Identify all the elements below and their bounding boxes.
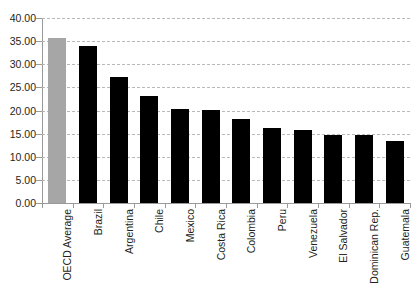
y-axis-tick <box>36 157 42 158</box>
x-axis-tick <box>134 203 135 208</box>
x-axis-tick <box>410 203 411 208</box>
x-axis-tick-label: Dominican Rep. <box>369 209 380 284</box>
x-axis-tick <box>379 203 380 208</box>
x-axis-tick-label: Chile <box>154 209 165 233</box>
x-axis-tick <box>103 203 104 208</box>
y-axis-tick <box>36 180 42 181</box>
x-axis-tick-label: El Salvador <box>338 209 349 263</box>
y-axis-tick <box>36 111 42 112</box>
y-axis-tick <box>36 64 42 65</box>
x-axis-tick-label: Mexico <box>185 209 196 242</box>
x-axis-tick <box>73 203 74 208</box>
y-axis-tick <box>36 87 42 88</box>
x-axis-tick <box>318 203 319 208</box>
x-axis-tick-label: Argentina <box>124 209 135 254</box>
x-axis-tick-label: OECD Average <box>62 209 73 281</box>
x-axis-tick-label: Colombia <box>246 209 257 253</box>
y-axis-tick <box>36 134 42 135</box>
x-axis-tick <box>257 203 258 208</box>
x-axis-tick-label: Guatemala <box>400 209 411 260</box>
y-axis-tick <box>36 41 42 42</box>
x-axis-tick-label: Brazil <box>93 209 104 235</box>
x-axis-tick <box>195 203 196 208</box>
x-axis-tick <box>287 203 288 208</box>
bar-chart: 0.005.0010.0015.0020.0025.0030.0035.0040… <box>0 0 417 293</box>
y-axis-tick <box>36 18 42 19</box>
x-axis-tick <box>165 203 166 208</box>
x-axis-tick-label: Peru <box>277 209 288 231</box>
x-axis-tick-label: Costa Rica <box>216 209 227 260</box>
x-axis-tick <box>42 203 43 208</box>
x-axis-tick <box>226 203 227 208</box>
x-axis-tick-label: Venezuela <box>308 209 319 258</box>
x-axis-label-group: OECD AverageBrazilArgentinaChileMexicoCo… <box>0 0 417 293</box>
x-axis-tick <box>349 203 350 208</box>
